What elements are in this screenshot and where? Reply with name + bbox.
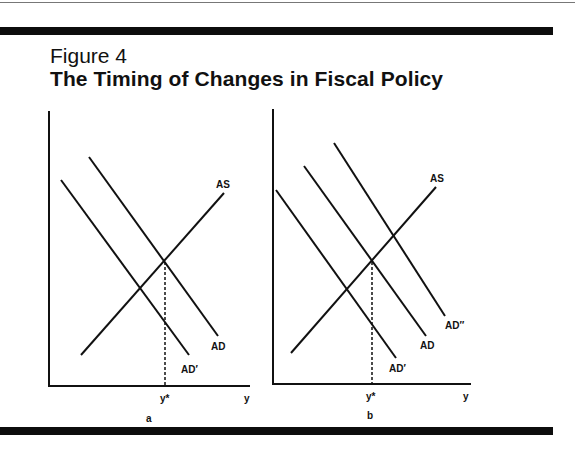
panel-a-ad-label: AD xyxy=(211,341,225,352)
panel-b-x-axis-label: y xyxy=(463,391,469,402)
bottom-thick-rule xyxy=(0,427,553,435)
panel-b-ystar-label: y* xyxy=(366,391,376,402)
panel-b-ad-label: AD xyxy=(420,340,434,351)
figure-graphics: AS AD AD′ y* y a AS AD″ AD AD′ y* y b xyxy=(0,0,575,452)
panel-b-ad-double-prime-label: AD″ xyxy=(445,320,464,331)
panel-b xyxy=(272,109,471,385)
panel-a-ystar-label: y* xyxy=(160,393,170,404)
panel-b-as-label: AS xyxy=(430,173,444,184)
panel-a-caption: a xyxy=(146,413,152,424)
panel-b-ad-prime-curve xyxy=(276,190,396,358)
panel-a-as-curve xyxy=(81,193,224,355)
panel-b-ad-prime-label: AD′ xyxy=(389,363,406,374)
panel-b-caption: b xyxy=(367,410,373,421)
panel-a-ad-curve xyxy=(89,157,218,336)
panel-a-as-label: AS xyxy=(216,179,230,190)
panel-b-as-curve xyxy=(291,187,436,353)
panel-a-x-axis-label: y xyxy=(244,393,250,404)
panel-a-ad-prime-label: AD′ xyxy=(181,364,198,375)
